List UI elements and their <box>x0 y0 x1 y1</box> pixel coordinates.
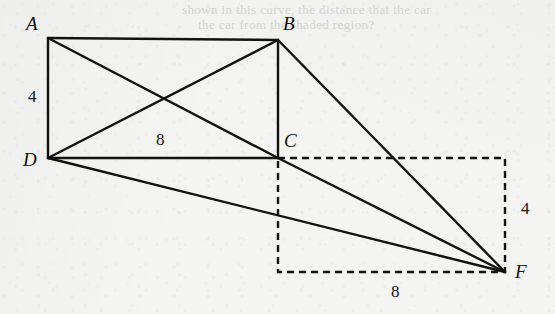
geometry-figure <box>0 0 555 314</box>
line-CF <box>278 158 505 272</box>
vertex-label-a: A <box>26 14 38 33</box>
dimension-label-ad: 4 <box>28 88 37 105</box>
figure-page: shown in this curve, the distance that t… <box>0 0 555 314</box>
vertex-label-f: F <box>515 262 527 281</box>
dimension-label-right: 4 <box>521 200 530 217</box>
line-BF <box>278 40 505 272</box>
dimension-label-dc: 8 <box>156 131 165 148</box>
vertex-label-c: C <box>284 131 297 150</box>
vertex-label-b: B <box>283 14 295 33</box>
vertex-label-d: D <box>23 150 37 169</box>
line-DF <box>48 158 505 272</box>
solid-edge-group <box>48 38 505 272</box>
edge-AB <box>48 38 278 40</box>
dimension-label-bottom: 8 <box>391 283 400 300</box>
